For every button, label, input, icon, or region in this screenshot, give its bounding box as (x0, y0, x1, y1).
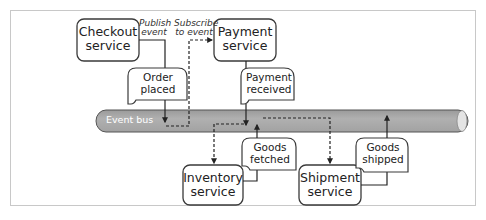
goods-shipped-event: Goods shipped (358, 142, 408, 166)
inventory-service-label-1: Inventory (183, 171, 243, 185)
publish-annotation-line-2: event (139, 28, 169, 37)
event-bus-label: Event bus (106, 114, 153, 125)
payment-received-label-2: received (243, 84, 295, 96)
goods-shipped-label-2: shipped (358, 154, 408, 166)
payment-received-label-1: Payment (243, 72, 295, 84)
shipment-service-label-2: service (299, 185, 361, 199)
payment-service: Payment service (214, 25, 276, 53)
publish-event-annotation: Publish event (139, 19, 169, 38)
order-placed-label-1: Order (130, 72, 186, 84)
inventory-service: Inventory service (183, 171, 243, 199)
inventory-service-label-2: service (183, 185, 243, 199)
order-placed-event: Order placed (130, 72, 186, 96)
subscribe-event-annotation: Subscribe to event (174, 19, 214, 38)
goods-fetched-label-1: Goods (244, 142, 296, 154)
checkout-service-label-2: service (77, 39, 139, 53)
checkout-service: Checkout service (77, 25, 139, 53)
goods-fetched-label-2: fetched (244, 154, 296, 166)
order-placed-label-2: placed (130, 84, 186, 96)
checkout-service-label-1: Checkout (77, 25, 139, 39)
payment-service-label-2: service (214, 39, 276, 53)
goods-shipped-label-1: Goods (358, 142, 408, 154)
subscribe-annotation-line-2: to event (174, 28, 214, 37)
payment-service-label-1: Payment (214, 25, 276, 39)
goods-fetched-event: Goods fetched (244, 142, 296, 166)
shipment-service: Shipment service (299, 171, 361, 199)
payment-received-event: Payment received (243, 72, 295, 96)
shipment-service-label-1: Shipment (299, 171, 361, 185)
